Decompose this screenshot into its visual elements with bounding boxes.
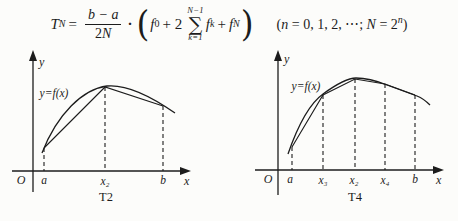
- t4-dashed-guides: [292, 79, 415, 170]
- t2-caption: T2: [99, 190, 113, 204]
- origin-label: O: [264, 172, 273, 186]
- trapezoid-formula: TN = b − a 2N · ( f0 + 2 N−1 ∑ k=1 fk + …: [0, 0, 458, 48]
- t2-axes: [12, 55, 186, 192]
- tick-a: a: [287, 173, 293, 185]
- tick-x2: x₂: [99, 175, 109, 187]
- left-paren: (: [136, 8, 149, 40]
- summation: N−1 ∑ k=1: [187, 6, 204, 41]
- y-axis-label: y: [38, 55, 45, 69]
- plus-two: + 2: [163, 16, 183, 33]
- equals-sign: =: [69, 16, 77, 33]
- tick-x4: x₄: [379, 174, 389, 186]
- f0-term: f: [150, 16, 154, 33]
- right-paren: ): [241, 8, 254, 40]
- denominator-coef: 2: [95, 26, 102, 41]
- t4-caption: T4: [348, 190, 363, 204]
- y-axis-arrow-icon: [274, 50, 282, 61]
- t2-trapezoid-diagram: y x O y=f(x) a x₂ b T2: [0, 49, 230, 221]
- fraction-denominator: 2N: [95, 25, 111, 41]
- formula-lhs: T: [51, 16, 59, 33]
- denominator-var: N: [102, 26, 111, 41]
- tick-x2: x₂: [348, 174, 358, 186]
- tick-b: b: [160, 174, 166, 186]
- x-axis-label: x: [183, 174, 190, 188]
- curve-label: y=f(x): [39, 87, 69, 100]
- x-axis-label: x: [435, 173, 442, 187]
- formula-condition: (n = 0, 1, 2, ⋯; N = 2n): [277, 16, 408, 33]
- fraction: b − a 2N: [85, 7, 121, 41]
- y-axis-arrow-icon: [29, 50, 37, 61]
- tick-b: b: [412, 173, 418, 185]
- plus-sign: +: [217, 16, 225, 33]
- sigma-symbol: ∑: [189, 15, 203, 33]
- origin-label: O: [17, 173, 26, 187]
- cond-base: = 2: [376, 17, 398, 32]
- curve-label: y=f(x): [291, 80, 321, 93]
- tick-x3: x₃: [317, 174, 327, 186]
- cond-values: = 0, 1, 2, ⋯;: [288, 17, 366, 32]
- y-axis-label: y: [283, 52, 290, 66]
- tick-a: a: [41, 174, 47, 186]
- multiplication-dot: ·: [127, 16, 132, 33]
- cond-N-var: N: [367, 17, 376, 32]
- fraction-numerator: b − a: [85, 7, 121, 24]
- cond-close: ): [403, 17, 408, 32]
- sum-lower-limit: k=1: [188, 33, 203, 42]
- t4-trapezoid-diagram: y x O y=f(x) a x₃ x₂ x₄ b T4: [230, 49, 458, 221]
